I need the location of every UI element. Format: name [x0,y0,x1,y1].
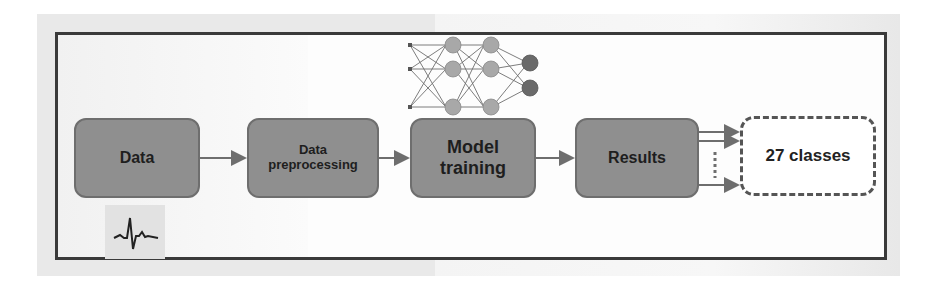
node-data: Data [74,118,200,198]
node-data-label: Data [120,149,155,167]
ecg-waveform-icon [114,218,158,249]
node-results: Results [575,118,699,198]
node-classes-label: 27 classes [765,146,850,166]
node-model-label-1: Model [447,137,499,158]
node-results-label: Results [608,149,666,167]
node-preprocessing-label-1: Data [299,143,327,158]
node-model-training: Model training [410,118,536,198]
node-preprocessing-label-2: preprocessing [268,158,358,173]
neural-network-icon [410,45,528,107]
node-27-classes: 27 classes [740,116,876,196]
node-data-preprocessing: Data preprocessing [247,118,379,198]
node-model-label-2: training [440,158,506,179]
